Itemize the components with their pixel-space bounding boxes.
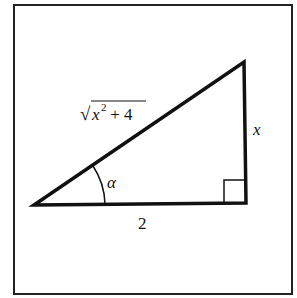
right-angle-marker [224, 180, 246, 203]
triangle [34, 62, 246, 205]
triangle-diagram: √ x 2 + 4 x α 2 [0, 0, 297, 298]
hypotenuse-label: √ x 2 + 4 [80, 101, 146, 124]
angle-label: α [107, 173, 117, 192]
adjacent-label: 2 [138, 214, 147, 233]
hyp-rest: + 4 [106, 105, 133, 124]
frame-border [14, 5, 292, 294]
radical-sign: √ [80, 103, 91, 124]
hyp-var: x [91, 105, 100, 124]
opposite-label: x [252, 120, 261, 139]
angle-arc [93, 166, 105, 204]
